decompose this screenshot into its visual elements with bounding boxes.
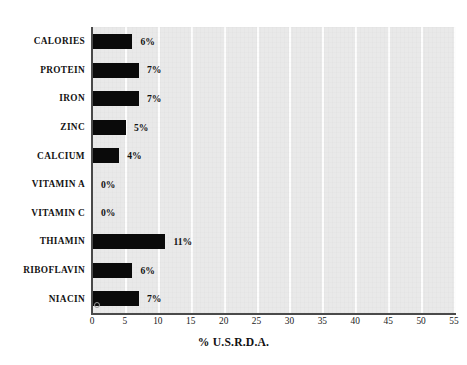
x-tick-label: 35 [307, 316, 337, 326]
category-label: VITAMIN C [0, 199, 85, 228]
category-label: CALORIES [0, 27, 85, 56]
bar [93, 120, 126, 135]
bar [93, 34, 132, 49]
x-axis-title: % U.S.R.D.A. [0, 336, 467, 349]
category-label: CALCIUM [0, 141, 85, 170]
bar-row: RIBOFLAVIN6% [0, 256, 467, 285]
x-tick-label: 30 [274, 316, 304, 326]
bar-row: NIACIN7% [0, 284, 467, 313]
bar [93, 91, 139, 106]
scan-artifact [94, 302, 100, 308]
bar-value-label: 7% [147, 284, 161, 313]
x-axis-tick-labels: 0510152025303540455055 [0, 316, 467, 332]
x-tick-label: 20 [209, 316, 239, 326]
bar-row: PROTEIN7% [0, 56, 467, 85]
bar-value-label: 0% [101, 170, 115, 199]
bar-row: VITAMIN C0% [0, 199, 467, 228]
x-tick-label: 5 [110, 316, 140, 326]
bar-row: IRON7% [0, 84, 467, 113]
bar [93, 148, 119, 163]
category-label: PROTEIN [0, 56, 85, 85]
bar [93, 63, 139, 78]
bar-value-label: 5% [134, 113, 148, 142]
bar-row: CALCIUM4% [0, 141, 467, 170]
x-tick-label: 40 [340, 316, 370, 326]
category-label: VITAMIN A [0, 170, 85, 199]
x-tick-label: 10 [143, 316, 173, 326]
category-label: RIBOFLAVIN [0, 256, 85, 285]
x-tick-label: 25 [242, 316, 272, 326]
bar-row: THIAMIN11% [0, 227, 467, 256]
bar-value-label: 11% [173, 227, 192, 256]
bar-row: VITAMIN A0% [0, 170, 467, 199]
category-label: THIAMIN [0, 227, 85, 256]
bar-value-label: 7% [147, 84, 161, 113]
bar-rows: CALORIES6%PROTEIN7%IRON7%ZINC5%CALCIUM4%… [0, 27, 467, 313]
bar-value-label: 6% [140, 27, 154, 56]
bar-row: CALORIES6% [0, 27, 467, 56]
bar-value-label: 7% [147, 56, 161, 85]
bar [93, 234, 165, 249]
category-label: ZINC [0, 113, 85, 142]
x-tick-label: 50 [406, 316, 436, 326]
x-tick-label: 55 [439, 316, 467, 326]
bar-value-label: 6% [140, 256, 154, 285]
bar-value-label: 0% [101, 199, 115, 228]
category-label: IRON [0, 84, 85, 113]
bar [93, 263, 132, 278]
x-tick-label: 0 [77, 316, 107, 326]
x-tick-label: 45 [373, 316, 403, 326]
x-axis-line [91, 313, 456, 315]
bar-row: ZINC5% [0, 113, 467, 142]
x-tick-label: 15 [176, 316, 206, 326]
bar-value-label: 4% [127, 141, 141, 170]
category-label: NIACIN [0, 284, 85, 313]
usrda-bar-chart: CALORIES6%PROTEIN7%IRON7%ZINC5%CALCIUM4%… [0, 0, 467, 365]
